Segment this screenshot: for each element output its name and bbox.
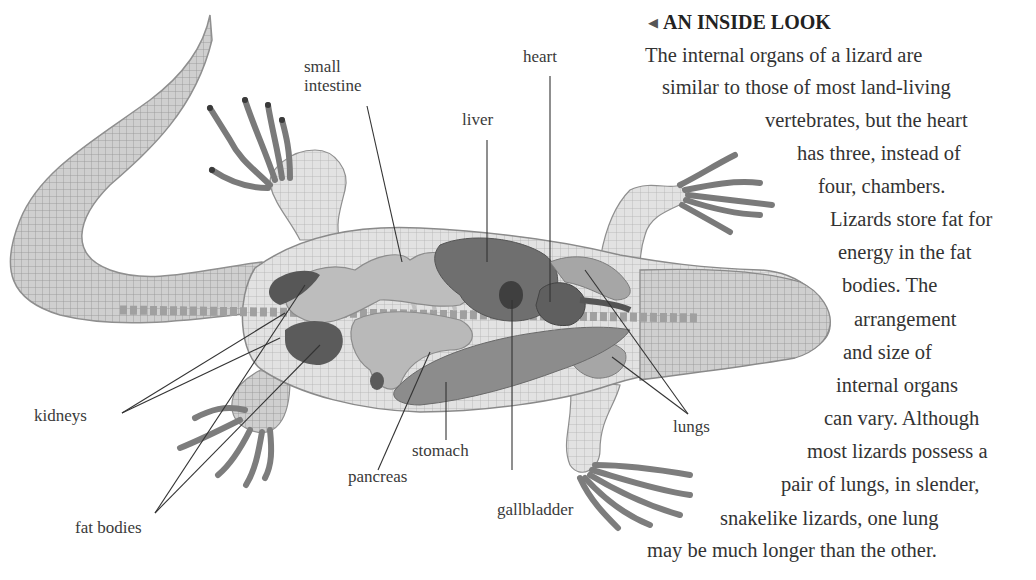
panel-line: energy in the fat xyxy=(838,237,971,268)
panel-line: The internal organs of a lizard are xyxy=(645,40,922,71)
lower-right-foot xyxy=(580,465,690,528)
leader-fat-bodies-b xyxy=(155,345,320,513)
label-fat-bodies: fat bodies xyxy=(75,518,142,537)
panel-line: vertebrates, but the heart xyxy=(765,105,968,136)
panel-title-text: AN INSIDE LOOK xyxy=(663,11,831,33)
panel-line: arrangement xyxy=(854,304,956,335)
head xyxy=(640,269,830,380)
panel-line: can vary. Although xyxy=(824,403,979,434)
panel-line: internal organs xyxy=(836,370,958,401)
heart-organ xyxy=(536,283,585,326)
panel-line: four, chambers. xyxy=(818,171,945,202)
panel-line: and size of xyxy=(843,337,932,368)
panel-line: may be much longer than the other. xyxy=(647,535,937,566)
panel-line: most lizards possess a xyxy=(807,436,988,467)
label-gallbladder: gallbladder xyxy=(497,500,573,519)
pancreas-spot xyxy=(370,372,384,390)
label-lungs: lungs xyxy=(673,417,710,436)
panel-line: pair of lungs, in slender, xyxy=(781,469,979,500)
panel-line: snakelike lizards, one lung xyxy=(720,503,939,534)
label-kidneys: kidneys xyxy=(34,406,87,425)
panel-line: Lizards store fat for xyxy=(830,204,992,235)
tail xyxy=(10,15,262,323)
label-stomach: stomach xyxy=(412,441,469,460)
label-pancreas: pancreas xyxy=(348,467,407,486)
panel-line: has three, instead of xyxy=(797,138,961,169)
label-small-intestine: small intestine xyxy=(304,57,394,95)
label-heart: heart xyxy=(523,47,557,66)
panel-line: similar to those of most land-living xyxy=(662,72,951,103)
left-triangle-icon: ◀ xyxy=(648,15,658,30)
label-liver: liver xyxy=(462,110,493,129)
panel-title: ◀AN INSIDE LOOK xyxy=(648,11,831,34)
panel-line: bodies. The xyxy=(842,270,937,301)
gallbladder-organ xyxy=(499,281,523,309)
upper-right-foot xyxy=(680,155,772,232)
